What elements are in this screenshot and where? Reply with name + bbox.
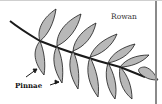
frame-divider <box>155 1 157 104</box>
figure-title: Rowan <box>111 12 137 21</box>
rowan-leaf-diagram: Rowan Pinnae <box>0 0 162 104</box>
pinnae-label: Pinnae <box>15 81 42 90</box>
